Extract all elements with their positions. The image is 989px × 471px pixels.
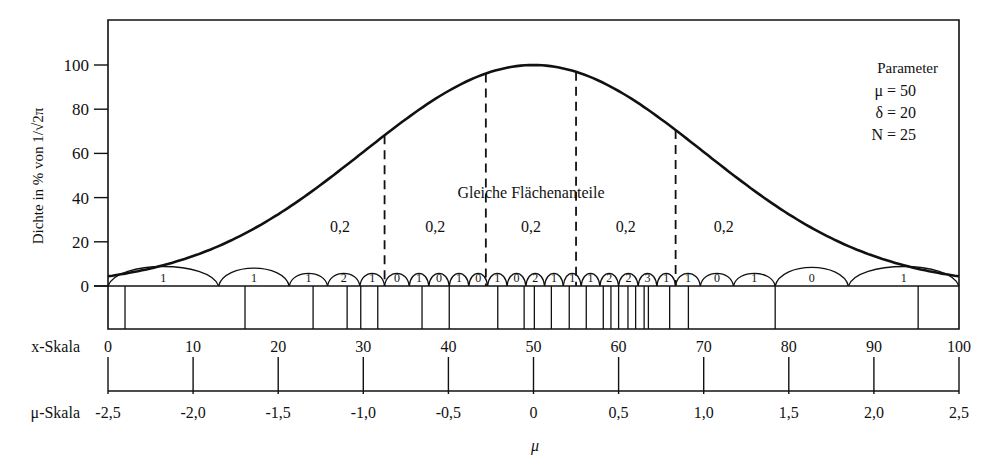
parameter-box: Parameterμ = 50δ = 20N = 25 [871,60,938,143]
arc-count: 1 [588,271,594,285]
mu-scale-tick-label: 1,5 [779,404,799,421]
mu-scale-tick-label: -2,5 [95,404,120,421]
x-scale-tick-label: 30 [355,338,371,355]
segment-label: 0,2 [714,218,734,235]
x-scale-tick-label: 40 [440,338,456,355]
x-scale-ticks: 0102030405060708090100 [104,338,971,355]
arc-count: 1 [456,271,462,285]
histogram-arcs: 1112101010102111223110101 [108,267,959,287]
y-axis: 020406080100 [64,56,109,296]
arc-count: 1 [160,271,166,285]
equal-area-label: Gleiche Flächenanteile [457,184,604,201]
parameter-line: N = 25 [871,126,916,143]
arc-count: 1 [569,271,575,285]
arc-count: 2 [625,271,631,285]
arc-count: 1 [663,271,669,285]
parameter-heading: Parameter [877,60,938,76]
density-curve [108,65,959,276]
arc-count: 1 [369,271,375,285]
arc-count: 0 [475,271,481,285]
arc-count: 2 [532,271,538,285]
parameter-line: δ = 20 [875,104,916,121]
y-tick-label: 40 [72,189,89,208]
y-tick-label: 0 [81,277,90,296]
arc-count: 1 [305,271,311,285]
x-scale-tick-label: 100 [947,338,971,355]
normal-distribution-chart: 020406080100 Dichte in % von 1/√2π Gleic… [0,0,989,471]
arc-count: 1 [416,271,422,285]
arc-count: 2 [606,271,612,285]
mu-scale-tick-label: -1,0 [351,404,376,421]
x-scale-tick-label: 80 [781,338,797,355]
x-scale-tick-label: 60 [611,338,627,355]
arc-count: 1 [551,271,557,285]
segment-label: 0,2 [425,218,445,235]
mu-scale-label: μ-Skala [31,404,80,422]
y-tick-label: 100 [64,56,90,75]
arc-count: 1 [751,271,757,285]
x-scale-tick-label: 20 [270,338,286,355]
x-scale-label: x-Skala [31,338,80,355]
mu-scale-tick-label: 0 [530,404,538,421]
arc-count: 0 [436,271,442,285]
y-tick-label: 20 [72,233,89,252]
mu-scale-axis: -2,5-2,0-1,5-1,0-0,500,51,01,52,02,5 [95,357,969,421]
x-scale-tick-label: 70 [696,338,712,355]
arc-count: 0 [809,271,815,285]
y-axis-label: Dichte in % von 1/√2π [30,107,46,244]
mu-scale-tick-label: 2,0 [864,404,884,421]
equal-area-segment-labels: 0,20,20,20,20,2 [330,218,734,235]
arc-count: 1 [685,271,691,285]
segment-label: 0,2 [616,218,636,235]
x-scale-tick-label: 10 [185,338,201,355]
mu-scale-tick-label: 0,5 [609,404,629,421]
mu-scale-tick-label: -0,5 [436,404,461,421]
segment-label: 0,2 [521,218,541,235]
x-scale-tick-label: 0 [104,338,112,355]
arc-count: 1 [901,271,907,285]
x-axis-label: μ [530,437,539,455]
mu-scale-tick-label: 2,5 [949,404,969,421]
parameter-line: μ = 50 [874,82,916,100]
segment-label: 0,2 [330,218,350,235]
x-scale-tick-label: 90 [866,338,882,355]
arc-count: 1 [494,271,500,285]
arc-count: 0 [714,271,720,285]
data-point-lines [125,286,918,329]
arc-count: 3 [645,271,651,285]
mu-scale-tick-label: 1,0 [694,404,714,421]
y-tick-label: 80 [72,100,89,119]
arc-count: 0 [513,271,519,285]
mu-scale-tick-label: -2,0 [180,404,205,421]
arc-count: 2 [341,271,347,285]
arc-count: 0 [394,271,400,285]
y-tick-label: 60 [72,144,89,163]
x-scale-tick-label: 50 [526,338,542,355]
mu-scale-tick-label: -1,5 [266,404,291,421]
arc-count: 1 [251,271,257,285]
